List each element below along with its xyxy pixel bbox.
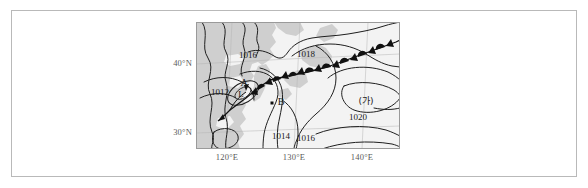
isobar-label-1016-south: 1016 bbox=[297, 133, 316, 143]
point-b-label: B bbox=[278, 96, 285, 107]
point-a-label: A bbox=[240, 77, 248, 88]
lat-tick-40n: 40°N bbox=[154, 58, 192, 68]
isobar-label-1016-north: 1016 bbox=[239, 50, 258, 60]
isobar-label-1014-south: 1014 bbox=[272, 131, 291, 141]
weather-map-svg: 1016 1018 1012 1014 1016 1020 L A B (가) bbox=[196, 22, 400, 149]
isobar-label-1012: 1012 bbox=[211, 87, 229, 97]
lon-tick-120e: 120°E bbox=[201, 152, 253, 162]
isobar-label-1018: 1018 bbox=[297, 49, 316, 59]
lon-tick-140e: 140°E bbox=[336, 152, 388, 162]
lon-tick-130e: 130°E bbox=[268, 152, 320, 162]
marker-point-a bbox=[252, 92, 255, 95]
region-ga-label: (가) bbox=[358, 96, 373, 106]
screenshot-root: 1016 1018 1012 1014 1016 1020 L A B (가) … bbox=[0, 0, 588, 188]
isobar-label-1020: 1020 bbox=[349, 112, 368, 122]
weather-map-panel: 1016 1018 1012 1014 1016 1020 L A B (가) … bbox=[196, 22, 400, 149]
marker-point-b bbox=[271, 102, 274, 105]
lat-tick-30n: 30°N bbox=[154, 127, 192, 137]
low-center-label: L bbox=[238, 89, 244, 99]
